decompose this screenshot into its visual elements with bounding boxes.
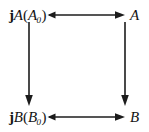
node-top-left-subscript: 0: [37, 15, 42, 25]
node-top-left-functor: A: [14, 7, 23, 23]
arrow-right-vertical: [117, 22, 133, 106]
arrow-bottom-horizontal: [47, 109, 125, 125]
node-bottom-left-functor: B: [14, 109, 23, 125]
node-top-left: jA(A0): [9, 8, 47, 23]
node-bottom-left: jB(B0): [9, 110, 47, 125]
node-top-left-argument: A: [28, 7, 37, 23]
arrow-left-vertical: [21, 22, 37, 106]
node-top-right: A: [130, 8, 139, 23]
node-bottom-left-subscript: 0: [37, 117, 42, 127]
node-bottom-right-functor: B: [130, 109, 139, 125]
node-top-left-close-paren: ): [42, 7, 47, 23]
node-bottom-right: B: [130, 110, 139, 125]
node-top-right-functor: A: [130, 7, 139, 23]
node-bottom-left-close-paren: ): [42, 109, 47, 125]
node-bottom-left-argument: B: [28, 109, 37, 125]
commutative-diagram: jA(A0) A jB(B0) B: [0, 0, 149, 132]
arrow-top-horizontal: [47, 7, 125, 23]
